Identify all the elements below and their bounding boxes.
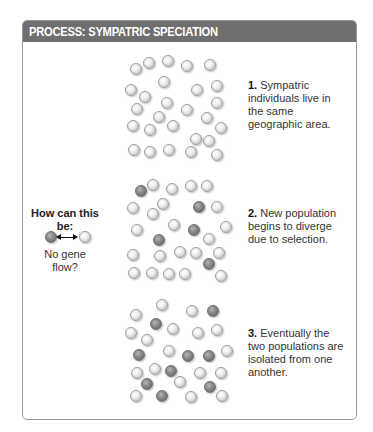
diverged-individual-panel-3 <box>207 305 219 317</box>
individual-panel-1 <box>144 146 156 158</box>
step-3-caption: 3. Eventually the two populations are is… <box>248 327 348 379</box>
individual-panel-1 <box>144 124 156 136</box>
step-2-caption: 2. New population begins to diverge due … <box>248 207 348 246</box>
individual-panel-2 <box>201 180 213 192</box>
individual-panel-1 <box>201 112 213 124</box>
diverged-individual-panel-3 <box>203 350 215 362</box>
diverged-individual-panel-3 <box>182 350 194 362</box>
individual-panel-3 <box>141 334 153 346</box>
individual-panel-2 <box>174 246 186 258</box>
individual-panel-2 <box>168 219 180 231</box>
diverged-individual-panel-2 <box>188 224 200 236</box>
individual-panel-1 <box>158 76 170 88</box>
diverged-individual-panel-3 <box>150 318 162 330</box>
individual-panel-1 <box>215 122 227 134</box>
step-1-caption: 1. Sympatric individuals live in the sam… <box>248 79 348 131</box>
individual-panel-1 <box>130 63 142 75</box>
individual-panel-1 <box>190 133 202 145</box>
individual-panel-2 <box>190 247 202 259</box>
individual-panel-2 <box>128 267 140 279</box>
individual-light-icon <box>79 231 91 243</box>
individual-panel-2 <box>127 249 139 261</box>
individual-panel-3 <box>130 309 142 321</box>
individual-panel-1 <box>167 120 179 132</box>
individual-panel-2 <box>157 198 169 210</box>
individual-panel-1 <box>143 57 155 69</box>
diverged-individual-panel-3 <box>141 378 153 390</box>
individual-panel-2 <box>166 183 178 195</box>
question-title: How can this be: <box>30 207 100 233</box>
individual-panel-3 <box>221 345 233 357</box>
individual-panel-3 <box>163 345 175 357</box>
step-1-number: 1. <box>248 79 257 91</box>
individual-panel-1 <box>161 97 173 109</box>
individual-panel-3 <box>215 367 227 379</box>
individual-panel-2 <box>211 201 223 213</box>
individual-panel-3 <box>186 305 198 317</box>
individual-panel-1 <box>127 120 139 132</box>
individual-panel-2 <box>220 221 232 233</box>
individual-panel-1 <box>153 111 165 123</box>
individual-panel-2 <box>146 267 158 279</box>
individual-panel-3 <box>216 390 228 402</box>
diverged-individual-panel-2 <box>153 234 165 246</box>
diverged-individual-panel-3 <box>133 349 145 361</box>
individual-panel-3 <box>167 323 179 335</box>
individual-panel-1 <box>211 80 223 92</box>
individual-panel-1 <box>181 104 193 116</box>
individual-panel-1 <box>163 144 175 156</box>
individual-panel-1 <box>211 149 223 161</box>
individual-panel-1 <box>139 91 151 103</box>
diverged-individual-panel-3 <box>165 365 177 377</box>
individual-panel-2 <box>127 202 139 214</box>
individual-panel-1 <box>162 55 174 67</box>
individual-panel-3 <box>192 327 204 339</box>
step-2-text: New population begins to diverge due to … <box>248 207 336 245</box>
diverged-individual-panel-3 <box>204 381 216 393</box>
diverged-individual-panel-2 <box>135 185 147 197</box>
step-1-text: Sympatric individuals live in the same g… <box>248 79 331 130</box>
individual-panel-1 <box>203 135 215 147</box>
individual-panel-1 <box>128 144 140 156</box>
individual-panel-3 <box>174 376 186 388</box>
individual-panel-3 <box>125 327 137 339</box>
individual-panel-3 <box>211 324 223 336</box>
step-3-number: 3. <box>248 327 257 339</box>
individual-panel-2 <box>185 180 197 192</box>
individual-panel-2 <box>147 208 159 220</box>
individual-panel-2 <box>215 270 227 282</box>
figure-header: PROCESS: SYMPATRIC SPECIATION <box>23 21 356 42</box>
individual-panel-3 <box>130 390 142 402</box>
individual-panel-1 <box>211 97 223 109</box>
individual-panel-2 <box>147 179 159 191</box>
individual-panel-3 <box>149 363 161 375</box>
individual-panel-2 <box>131 224 143 236</box>
figure-title: PROCESS: SYMPATRIC SPECIATION <box>29 24 218 39</box>
step-3-text: Eventually the two populations are isola… <box>248 327 343 378</box>
individual-panel-1 <box>125 84 137 96</box>
question-caption: No gene flow? <box>30 248 100 274</box>
step-2-number: 2. <box>248 207 257 219</box>
individual-panel-3 <box>194 367 206 379</box>
individual-panel-1 <box>191 84 203 96</box>
individual-panel-3 <box>156 299 168 311</box>
individual-panel-1 <box>181 60 193 72</box>
diverged-individual-panel-2 <box>193 201 205 213</box>
individual-panel-1 <box>185 146 197 158</box>
arrow-right-icon <box>73 234 78 240</box>
individual-panel-2 <box>203 233 215 245</box>
diverged-individual-panel-3 <box>156 390 168 402</box>
diverged-individual-panel-2 <box>203 258 215 270</box>
individual-panel-2 <box>179 268 191 280</box>
individual-panel-1 <box>131 103 143 115</box>
double-arrow-icon <box>58 237 74 238</box>
individual-panel-1 <box>204 59 216 71</box>
individual-panel-3 <box>131 367 143 379</box>
individual-panel-3 <box>185 391 197 403</box>
individual-panel-2 <box>154 250 166 262</box>
individual-panel-2 <box>163 268 175 280</box>
individual-panel-2 <box>213 247 225 259</box>
